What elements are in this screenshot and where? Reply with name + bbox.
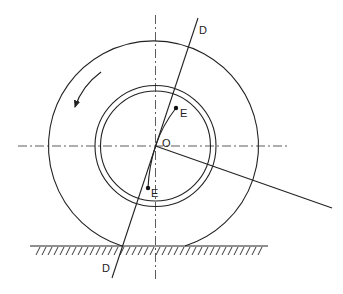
label-d-top: D (199, 24, 207, 36)
point-e-lower-dot (146, 186, 150, 190)
wheel-diagram: D D O E E (0, 0, 343, 294)
ground (30, 246, 268, 255)
outer-tire-outline (48, 41, 258, 246)
point-e-upper-dot (174, 106, 178, 110)
centerlines (18, 15, 288, 282)
label-o-center: O (162, 137, 171, 149)
label-e-upper: E (180, 107, 187, 119)
diagram-canvas: D D O E E (0, 0, 343, 294)
rotation-arrow-icon (75, 72, 101, 107)
ground-hatching (36, 247, 262, 255)
label-e-lower: E (151, 187, 158, 199)
label-d-bottom: D (102, 262, 110, 274)
